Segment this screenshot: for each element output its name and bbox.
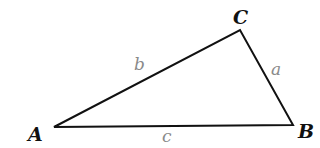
side-label-c: c [162, 126, 172, 146]
side-label-a: a [271, 59, 281, 79]
vertex-label-a: A [26, 123, 43, 145]
triangle-diagram: A B C a b c [0, 0, 320, 148]
triangle-figure: A B C a b c [0, 0, 320, 148]
vertex-label-b: B [297, 120, 314, 142]
vertex-label-c: C [233, 6, 248, 28]
side-label-b: b [134, 54, 145, 74]
triangle-abc [54, 30, 293, 127]
